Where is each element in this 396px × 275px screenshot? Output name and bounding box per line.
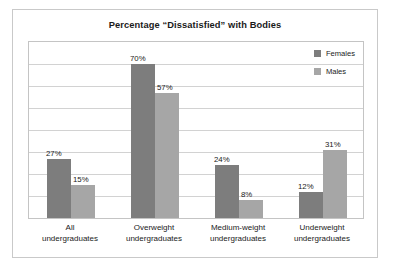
bar-females-0[interactable]: [47, 159, 71, 218]
category-label-line1: Medium-weight: [196, 223, 280, 234]
bar-value-label: 24%: [214, 155, 230, 164]
bar-value-label: 57%: [157, 83, 173, 92]
category-label-3: Underweightundergraduates: [280, 223, 364, 244]
chart-legend: FemalesMales: [314, 49, 355, 76]
bar-males-0[interactable]: [71, 185, 95, 218]
bar-males-3[interactable]: [323, 150, 347, 218]
category-label-line1: Overweight: [112, 223, 196, 234]
category-label-2: Medium-weightundergraduates: [196, 223, 280, 244]
bar-value-label: 70%: [130, 54, 146, 63]
bar-group: 24%8%: [215, 42, 263, 218]
legend-item-females[interactable]: Females: [314, 49, 355, 58]
legend-label: Males: [326, 67, 346, 76]
bar-males-2[interactable]: [239, 200, 263, 218]
chart-title: Percentage “Dissatisfied” with Bodies: [13, 20, 377, 30]
category-label-1: Overweightundergraduates: [112, 223, 196, 244]
legend-swatch-icon: [314, 68, 321, 75]
category-label-line2: undergraduates: [28, 234, 112, 245]
category-label-line2: undergraduates: [196, 234, 280, 245]
category-label-line1: All: [28, 223, 112, 234]
chart-figure-frame: Percentage “Dissatisfied” with Bodies 27…: [12, 9, 378, 258]
category-label-line1: Underweight: [280, 223, 364, 234]
legend-item-males[interactable]: Males: [314, 67, 355, 76]
category-label-0: Allundergraduates: [28, 223, 112, 244]
category-label-line2: undergraduates: [112, 234, 196, 245]
bar-females-3[interactable]: [299, 192, 323, 218]
bar-value-label: 8%: [241, 190, 252, 199]
bar-males-1[interactable]: [155, 93, 179, 218]
legend-label: Females: [326, 49, 355, 58]
legend-swatch-icon: [314, 50, 321, 57]
chart-category-axis: AllundergraduatesOverweightundergraduate…: [28, 223, 364, 255]
chart-plot-area: 27%15%70%57%24%8%12%31% FemalesMales: [28, 41, 364, 219]
bar-value-label: 12%: [298, 182, 314, 191]
bar-group: 70%57%: [131, 42, 179, 218]
bar-females-2[interactable]: [215, 165, 239, 218]
bar-value-label: 15%: [73, 175, 89, 184]
bar-females-1[interactable]: [131, 64, 155, 218]
category-label-line2: undergraduates: [280, 234, 364, 245]
bar-value-label: 27%: [46, 149, 62, 158]
bar-value-label: 31%: [325, 140, 341, 149]
bar-group: 27%15%: [47, 42, 95, 218]
